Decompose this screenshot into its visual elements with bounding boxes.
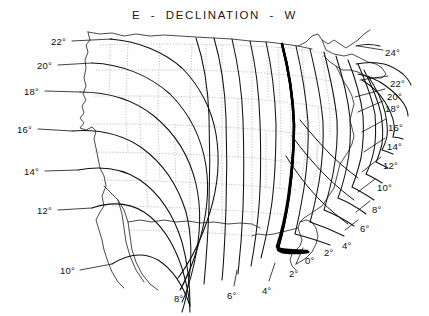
contour-label-bot-6: 6°: [227, 290, 236, 301]
contour-label-right-20: 20°: [387, 91, 402, 102]
contour-label-bot-w4: 4°: [342, 240, 351, 251]
contour-label-left-10: 10°: [60, 265, 75, 276]
isogonic-contours-east: [72, 39, 218, 312]
contour-label-bot-2: 2°: [289, 268, 298, 279]
leader-lead-20L: [58, 63, 92, 65]
leader-lead-8R: [356, 201, 370, 212]
contour-label-right-12: 12°: [383, 160, 398, 171]
label-leader-lines: [38, 39, 388, 289]
leader-lead-16L: [38, 129, 72, 131]
contour-label-left-18: 18°: [24, 86, 39, 97]
contour-label-right-24: 24°: [385, 47, 400, 58]
contour-label-left-16: 16°: [17, 124, 32, 135]
isogonic-contours-central: [196, 38, 276, 284]
contour-label-right-6: 6°: [360, 223, 369, 234]
contour-label-right-14: 14°: [387, 141, 402, 152]
isogonic-chart-page: E - DECLINATION - W: [0, 0, 429, 316]
contour-label-right-16: 16°: [388, 122, 403, 133]
leader-lead-18L: [45, 91, 80, 92]
contour-label-left-20: 20°: [37, 60, 52, 71]
contour-label-right-8: 8°: [372, 204, 381, 215]
leader-lead-10L: [80, 264, 112, 270]
leader-lead-14L: [45, 170, 78, 171]
contour-label-bot-4: 4°: [262, 285, 271, 296]
contour-label-bot-8: 8°: [174, 293, 183, 304]
leader-lead-10R: [358, 179, 375, 192]
leader-lead-12L: [58, 208, 92, 210]
contour-label-bot-0: 0°: [305, 255, 314, 266]
contour-label-right-22: 22°: [390, 78, 405, 89]
isogonic-contours-northeast-dense: [286, 120, 358, 224]
contour-label-left-12: 12°: [37, 205, 52, 216]
contour-label-right-10: 10°: [377, 182, 392, 193]
contour-label-bot-w2: 2°: [324, 247, 333, 258]
contour-label-right-18: 18°: [385, 103, 400, 114]
leader-lead-4B: [269, 263, 275, 281]
leader-lead-24R: [358, 46, 383, 50]
contour-label-left-22: 22°: [51, 36, 66, 47]
contour-label-left-14: 14°: [24, 166, 39, 177]
leader-lead-6B: [234, 270, 237, 286]
leader-lead-22L: [72, 39, 112, 41]
